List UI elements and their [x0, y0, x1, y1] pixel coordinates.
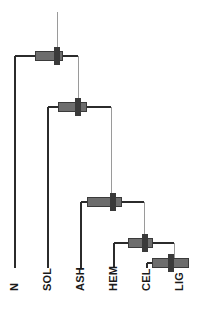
- error-bar-node-2: [58, 103, 86, 112]
- leaf-label-sol: SOL: [42, 268, 53, 291]
- median-tick-node-3: [111, 194, 116, 211]
- median-tick-node-2: [76, 99, 81, 116]
- leaf-label-n: N: [9, 283, 20, 291]
- leaf-label-hem: HEM: [108, 266, 119, 291]
- median-tick-node-5: [169, 255, 174, 272]
- leaf-label-cel: CEL: [141, 268, 152, 291]
- median-tick-node-4: [143, 235, 148, 252]
- median-tick-node-1: [55, 48, 60, 65]
- branch-group: [15, 56, 180, 268]
- dendrogram-chart: NSOLASHHEMCELLIG: [0, 0, 197, 333]
- error-bar-node-4: [128, 239, 152, 248]
- leaf-label-ash: ASH: [75, 267, 86, 291]
- dendrogram-canvas: [0, 0, 197, 333]
- leaf-label-lig: LIG: [174, 272, 185, 291]
